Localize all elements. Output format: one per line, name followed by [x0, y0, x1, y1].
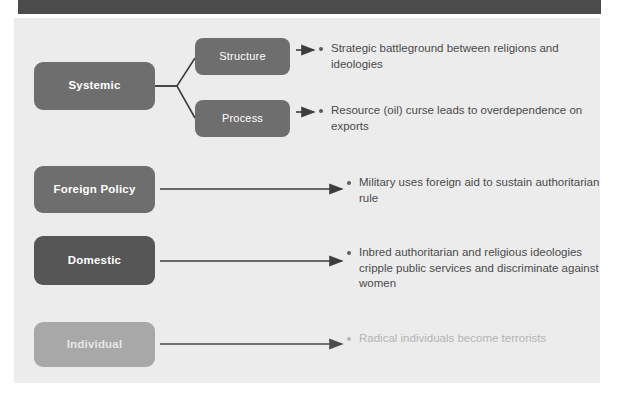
node-foreign-policy-label: Foreign Policy — [53, 183, 135, 196]
slide-canvas: Systemic Structure Process Foreign Polic… — [0, 0, 617, 404]
bullet-dot-icon — [347, 251, 351, 255]
bullet-process: Resource (oil) curse leads to overdepend… — [319, 103, 593, 134]
node-systemic-label: Systemic — [68, 79, 120, 92]
line-systemic-to-structure — [155, 58, 195, 86]
bullet-dot-icon — [319, 47, 323, 51]
bullet-dot-icon — [319, 109, 323, 113]
bullet-individual-text: Radical individuals become terrorists — [359, 331, 546, 347]
bullet-individual: Radical individuals become terrorists — [347, 331, 546, 347]
bullet-structure: Strategic battleground between religions… — [319, 41, 593, 72]
node-individual-label: Individual — [67, 338, 123, 351]
node-systemic[interactable]: Systemic — [34, 62, 155, 110]
node-foreign-policy[interactable]: Foreign Policy — [34, 166, 155, 213]
bullet-process-text: Resource (oil) curse leads to overdepend… — [331, 103, 593, 134]
bullet-domestic-text: Inbred authoritarian and religious ideol… — [359, 245, 600, 292]
bullet-domestic: Inbred authoritarian and religious ideol… — [347, 245, 600, 292]
bullet-structure-text: Strategic battleground between religions… — [331, 41, 593, 72]
line-systemic-to-process — [155, 86, 195, 118]
header-band — [18, 0, 601, 14]
bullet-foreign-policy-text: Military uses foreign aid to sustain aut… — [359, 175, 600, 206]
bullet-foreign-policy: Military uses foreign aid to sustain aut… — [347, 175, 600, 206]
bullet-dot-icon — [347, 181, 351, 185]
diagram-panel: Systemic Structure Process Foreign Polic… — [14, 18, 600, 383]
node-domestic-label: Domestic — [68, 254, 121, 267]
node-structure[interactable]: Structure — [195, 38, 290, 75]
node-domestic[interactable]: Domestic — [34, 236, 155, 285]
node-process-label: Process — [222, 112, 263, 125]
node-individual[interactable]: Individual — [34, 322, 155, 367]
bullet-dot-icon — [347, 337, 351, 341]
node-structure-label: Structure — [219, 50, 265, 63]
node-process[interactable]: Process — [195, 100, 290, 137]
